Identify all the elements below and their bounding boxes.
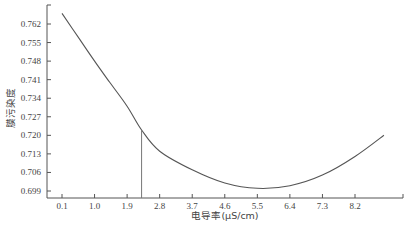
data-curve	[62, 13, 384, 188]
y-axis-label: 膜污染度	[5, 88, 16, 128]
y-tick-label: 0.734	[21, 93, 42, 103]
x-tick-label: 8.2	[349, 201, 360, 211]
y-tick-label: 0.748	[21, 56, 42, 66]
line-chart: 0.6990.7060.7130.7200.7270.7340.7410.748…	[0, 0, 407, 232]
x-axis: 0.11.01.92.83.74.65.56.47.38.2	[47, 194, 403, 211]
y-tick-label: 0.762	[21, 19, 41, 29]
x-tick-label: 2.8	[154, 201, 166, 211]
x-tick-label: 0.1	[56, 201, 67, 211]
x-tick-label: 1.0	[89, 201, 101, 211]
x-tick-label: 6.4	[284, 201, 296, 211]
y-tick-label: 0.741	[21, 75, 41, 85]
y-axis: 0.6990.7060.7130.7200.7270.7340.7410.748…	[21, 5, 51, 198]
y-tick-label: 0.720	[21, 130, 42, 140]
series-layer	[62, 13, 384, 188]
y-tick-label: 0.699	[21, 186, 42, 196]
y-tick-label: 0.727	[21, 112, 42, 122]
x-tick-label: 7.3	[317, 201, 329, 211]
y-tick-label: 0.706	[21, 167, 42, 177]
y-tick-label: 0.755	[21, 38, 42, 48]
x-tick-label: 1.9	[121, 201, 133, 211]
x-axis-label: 电导率(μS/cm)	[191, 210, 258, 221]
y-tick-label: 0.713	[21, 149, 42, 159]
